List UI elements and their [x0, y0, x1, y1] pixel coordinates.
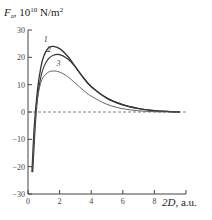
data-series: [32, 46, 180, 172]
x-axis-title: 2D, a.u.: [162, 196, 197, 208]
y-axis-title: Fa, 1010 N/m2: [3, 6, 64, 20]
series-curve-2: [33, 54, 180, 172]
line-chart: Fa, 1010 N/m2 3020100−10−20−30 02468 123…: [0, 0, 212, 220]
x-tick-label: 0: [26, 197, 30, 206]
y-tick-label: 30: [17, 26, 25, 35]
x-tick-label: 6: [121, 197, 125, 206]
y-tick-label: −20: [12, 163, 25, 172]
y-tick-label: 20: [17, 53, 25, 62]
y-tick-label: −10: [12, 135, 25, 144]
curve-label-3: 3: [55, 59, 60, 68]
series-curve-1: [32, 46, 180, 172]
series-curve-3: [33, 71, 180, 167]
curve-label-1: 1: [44, 35, 48, 44]
curve-labels: 123: [44, 35, 61, 68]
y-tick-label: 0: [21, 108, 25, 117]
x-tick-label: 2: [58, 197, 62, 206]
y-tick-label: −30: [12, 190, 25, 199]
curve-label-2: 2: [47, 45, 51, 54]
y-tick-label: 10: [17, 81, 25, 90]
x-tick-label: 4: [89, 197, 93, 206]
x-tick-label: 8: [152, 197, 156, 206]
y-axis-ticks: 3020100−10−20−30: [12, 26, 32, 199]
